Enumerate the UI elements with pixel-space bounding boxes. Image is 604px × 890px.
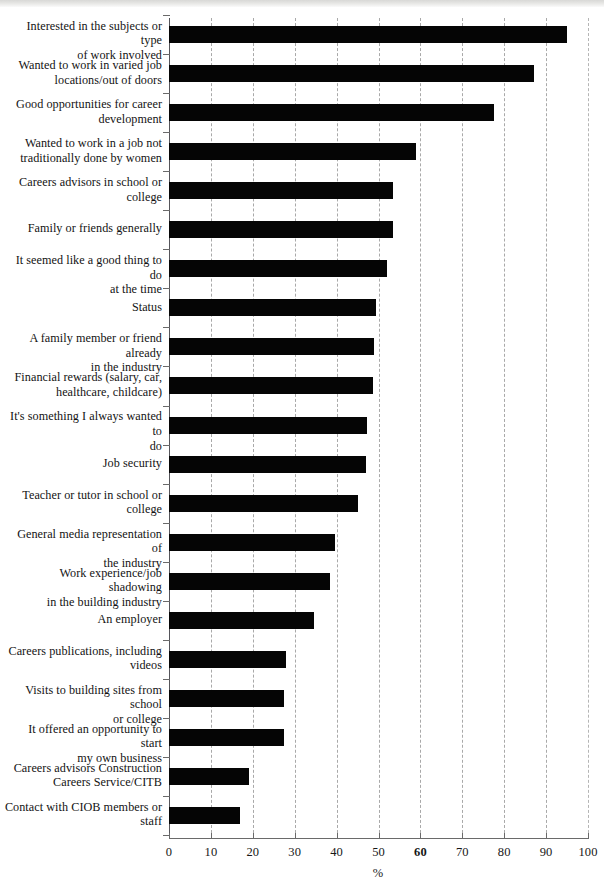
category-label-line: Status [4,300,162,315]
category-label-line: Family or friends generally [4,221,162,236]
category-label-line: Careers publications, including [4,644,162,659]
y-tick [163,562,170,563]
x-tick-label-80: 80 [484,845,524,860]
y-tick [163,718,170,719]
gridline-50 [379,18,380,838]
bar [169,573,330,590]
category-label-line: It's something I always wanted to [4,409,162,438]
bar [169,495,358,512]
bar [169,417,367,434]
y-tick [163,406,170,407]
y-tick [163,54,170,55]
gridline-90 [546,18,547,838]
category-label-line: Wanted to work in a job not [4,136,162,151]
category-label-line: Visits to building sites from school [4,683,162,712]
x-tick-label-50: 50 [359,845,399,860]
y-tick [163,445,170,446]
gridline-60 [420,18,421,838]
gridline-100 [588,18,589,838]
x-tick-60 [420,833,421,839]
bar [169,182,393,199]
category-label-line: traditionally done by women [4,151,162,166]
category-label-line: videos [4,658,162,673]
y-tick [163,171,170,172]
bar [169,260,387,277]
bar [169,729,284,746]
category-label: Status [4,300,162,315]
x-tick-10 [211,833,212,839]
category-label-line: It seemed like a good thing to do [4,253,162,282]
y-tick [163,640,170,641]
x-tick-label-0: 0 [149,845,189,860]
bar [169,143,416,160]
category-label: General media representation ofthe indus… [4,527,162,571]
y-tick [163,210,170,211]
category-label-line: Job security [4,456,162,471]
category-label: Wanted to work in a job nottraditionally… [4,136,162,165]
category-label-line: healthcare, childcare) [4,385,162,400]
category-label: Careers advisors in school orcollege [4,175,162,204]
x-tick-20 [253,833,254,839]
x-tick-30 [295,833,296,839]
category-label-line: Careers Service/CITB [4,775,162,790]
category-label-line: do [4,439,162,454]
category-label-line: An employer [4,612,162,627]
x-axis-title: % [358,866,398,881]
y-tick [163,601,170,602]
y-tick [163,15,170,16]
category-label-line: Teacher or tutor in school or [4,488,162,503]
bar [169,534,335,551]
x-tick-label-20: 20 [233,845,273,860]
category-label: Careers advisors ConstructionCareers Ser… [4,761,162,790]
category-label: Good opportunities for careerdevelopment [4,97,162,126]
category-label-line: college [4,190,162,205]
category-label: It seemed like a good thing to doat the … [4,253,162,297]
bar [169,768,249,785]
category-label-line: development [4,112,162,127]
category-label: Work experience/job shadowingin the buil… [4,566,162,610]
y-tick [163,523,170,524]
category-label: It's something I always wanted todo [4,409,162,453]
category-label: Family or friends generally [4,221,162,236]
category-label-line: Interested in the subjects or type [4,19,162,48]
category-label-line: Contact with CIOB members or [4,800,162,815]
bar [169,612,314,629]
bar [169,26,567,43]
x-tick-label-40: 40 [317,845,357,860]
x-tick-label-70: 70 [442,845,482,860]
horizontal-bar-chart: Interested in the subjects or typeof wor… [0,0,604,890]
category-label: Wanted to work in varied joblocations/ou… [4,58,162,87]
category-label: Job security [4,456,162,471]
y-tick [163,757,170,758]
x-tick-label-30: 30 [275,845,315,860]
category-label: A family member or friend alreadyin the … [4,331,162,375]
y-tick [163,484,170,485]
bar [169,690,284,707]
category-label-line: Wanted to work in varied job [4,58,162,73]
x-tick-label-10: 10 [191,845,231,860]
x-tick-label-60: 60 [400,845,440,860]
y-tick [163,132,170,133]
category-label-line: at the time [4,282,162,297]
y-tick [163,835,170,836]
y-tick [163,249,170,250]
category-label: Teacher or tutor in school orcollege [4,488,162,517]
x-tick-90 [546,833,547,839]
category-label-line: Work experience/job shadowing [4,566,162,595]
category-label: An employer [4,612,162,627]
gridline-80 [504,18,505,838]
bar [169,221,393,238]
x-tick-50 [379,833,380,839]
category-label-line: Careers advisors Construction [4,761,162,776]
bar [169,104,494,121]
bar [169,456,366,473]
category-label: Financial rewards (salary, car,healthcar… [4,370,162,399]
x-tick-40 [337,833,338,839]
bar [169,377,373,394]
bar [169,651,286,668]
gridline-70 [462,18,463,838]
x-tick-100 [588,833,589,839]
category-label: Visits to building sites from schoolor c… [4,683,162,727]
x-tick-70 [462,833,463,839]
y-tick [163,327,170,328]
